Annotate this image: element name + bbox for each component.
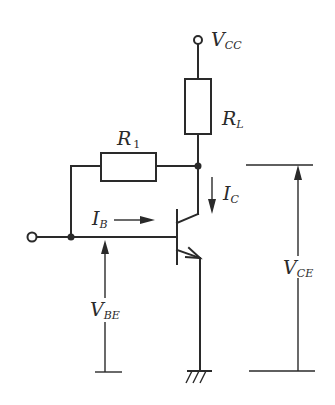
ic-arrow-head-icon — [208, 199, 216, 214]
vcc-terminal — [194, 36, 202, 44]
ic-label: IC — [222, 182, 240, 206]
vbe-label: VBE — [90, 298, 120, 322]
r1-label: R1 — [116, 127, 140, 151]
rl-label: RL — [221, 107, 244, 131]
ground-icon — [186, 371, 211, 383]
circuit-diagram: VCC RL R1 IC IB VBE — [0, 0, 335, 405]
vce-arrow-head-icon — [294, 165, 302, 180]
resistor-r1 — [101, 153, 156, 181]
input-terminal — [28, 233, 37, 242]
resistor-rl — [185, 79, 211, 134]
vce-label: VCE — [283, 256, 313, 280]
vcc-label: VCC — [211, 28, 242, 52]
vbe-arrow-head-icon — [101, 240, 109, 254]
npn-transistor-icon — [177, 210, 200, 264]
base-junction-node — [68, 234, 75, 241]
ib-arrow-head-icon — [140, 216, 155, 224]
circuit-svg: VCC RL R1 IC IB VBE — [0, 0, 335, 405]
ib-label: IB — [91, 207, 108, 231]
